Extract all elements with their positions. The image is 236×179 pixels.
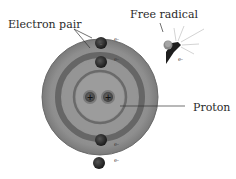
electron-bottom-2 (93, 157, 105, 169)
svg-text:–: – (100, 40, 103, 47)
proton-label: Proton (193, 101, 230, 114)
atom-diagram: + + – e- e- e- e- Electron pair Proton F… (0, 0, 236, 179)
electron-symbol: e- (114, 36, 119, 42)
free-radical-arrow (160, 23, 163, 32)
electron-symbol: e- (114, 56, 119, 62)
free-radical-label: Free radical (130, 8, 199, 21)
proton-left: + (83, 90, 97, 104)
electron-symbol: e- (114, 141, 119, 147)
proton-right: + (101, 90, 115, 104)
electron-pair-label: Electron pair (8, 18, 82, 31)
proton-charge-symbol: + (105, 93, 112, 102)
electron-bottom-1 (95, 134, 107, 146)
electron-symbol: e- (178, 56, 183, 62)
free-radical-particle (164, 26, 205, 64)
electron-top-2 (95, 56, 107, 68)
electron-pair-arrow-1 (74, 29, 92, 38)
electron-symbol: e- (114, 157, 119, 163)
electron-top-1: – (95, 37, 107, 49)
proton-charge-symbol: + (87, 93, 94, 102)
